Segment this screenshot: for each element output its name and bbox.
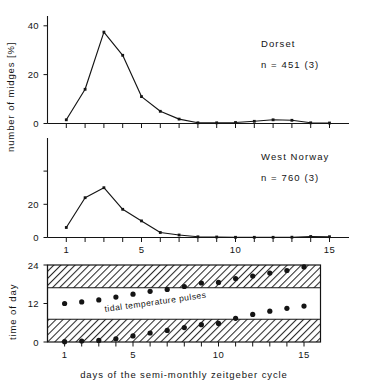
timeofday-ytick-0: 0 <box>33 337 39 348</box>
shaded-band-lower <box>48 319 321 342</box>
timeofday-xtick-label-10: 10 <box>213 349 224 360</box>
x-axis-title: days of the semi-monthly zeitgeber cycle <box>80 369 288 380</box>
xtick-label-1: 1 <box>63 244 69 255</box>
dorset-n-annotation: n = 451 (3) <box>261 59 319 70</box>
dorset-ytick-0: 0 <box>33 118 39 129</box>
westnorway-markers <box>65 186 331 238</box>
timeofday-ytick-12: 12 <box>28 298 39 309</box>
midges-zeitgeber-figure: number of midges [%] 0 20 40 <box>0 0 368 387</box>
panel-dorset: 0 20 40 <box>28 16 349 129</box>
dorset-ytick-40: 40 <box>28 20 39 31</box>
westnorway-title: West Norway <box>261 151 329 162</box>
panel-west-norway: 0 20 1 5 10 <box>28 138 349 255</box>
xtick-label-10: 10 <box>230 244 241 255</box>
xtick-label-15: 15 <box>324 244 335 255</box>
dorset-y-ticks: 0 20 40 <box>28 20 48 129</box>
y-axis-title-midges-text: number of midges [%] <box>5 42 16 152</box>
figure-canvas: number of midges [%] 0 20 40 <box>0 0 368 387</box>
timeofday-x-ticks: 1 5 10 15 <box>62 342 310 360</box>
dorset-ytick-20: 20 <box>28 69 39 80</box>
westnorway-y-ticks: 0 20 <box>28 171 48 243</box>
y-axis-title-time-of-day: time of day <box>7 284 18 340</box>
xtick-label-5: 5 <box>139 244 145 255</box>
y-axis-title-midges: number of midges [%] <box>5 42 16 152</box>
westnorway-n-annotation: n = 760 (3) <box>261 172 319 183</box>
tidal-temperature-pulses-label: tidal temperature pulses <box>104 290 207 314</box>
westnorway-ytick-20: 20 <box>28 199 39 210</box>
westnorway-x-ticks: 1 5 10 15 <box>63 238 335 256</box>
westnorway-ytick-0: 0 <box>33 232 39 243</box>
dorset-title: Dorset <box>261 38 296 49</box>
timeofday-ytick-24: 24 <box>28 260 39 271</box>
panel-time-of-day: 0 12 24 1 5 <box>7 260 321 380</box>
timeofday-xtick-label-15: 15 <box>298 349 309 360</box>
timeofday-y-ticks: 0 12 24 <box>28 260 48 348</box>
timeofday-xtick-label-5: 5 <box>130 349 136 360</box>
timeofday-xtick-label-1: 1 <box>62 349 68 360</box>
westnorway-data-line <box>66 188 329 238</box>
